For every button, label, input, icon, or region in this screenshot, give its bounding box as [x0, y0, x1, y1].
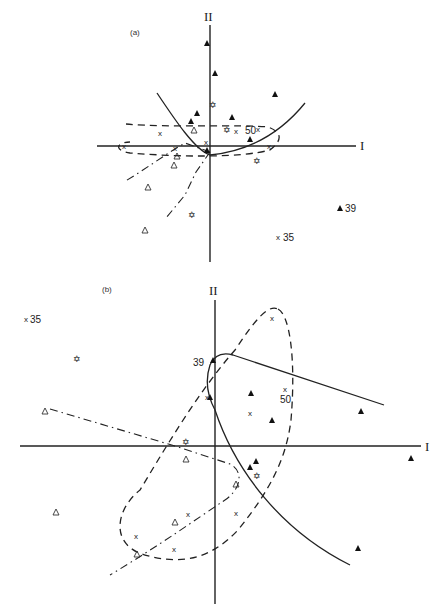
b-solid-curve — [207, 354, 384, 565]
cross-icon: x — [234, 509, 238, 518]
open-triangle-icon — [183, 456, 189, 462]
cross-icon: x — [158, 129, 162, 138]
star-icon: ✡ — [253, 156, 261, 166]
b-stars: ✡ ✡ ✡ — [73, 354, 261, 481]
open-triangle-icon — [134, 551, 140, 557]
cross-icon: x — [122, 142, 126, 151]
star-icon: ✡ — [223, 125, 231, 135]
star-icon: ✡ — [253, 471, 261, 481]
filled-triangle-icon — [229, 114, 235, 120]
a-dashdot-ray-1 — [124, 143, 210, 182]
cross-icon-50: x — [283, 385, 287, 394]
cross-icon-35: x — [276, 233, 280, 242]
cross-icon: x — [172, 545, 176, 554]
a-x-axis-label: I — [360, 138, 364, 153]
b-label-35: 35 — [30, 314, 42, 325]
a-y-axis-label: II — [204, 9, 213, 24]
star-icon: ✡ — [209, 100, 217, 110]
star-icon: ✡ — [188, 210, 196, 220]
panel-a-label: (a) — [130, 28, 140, 37]
open-triangle-icon — [191, 127, 197, 133]
b-x-axis-label: I — [425, 439, 429, 454]
filled-triangle-icon — [253, 458, 259, 464]
open-triangle-icon — [172, 519, 178, 525]
a-label-39: 39 — [345, 203, 357, 214]
filled-triangle-icon — [247, 464, 253, 470]
cross-icon: x — [173, 144, 177, 153]
filled-triangle-icon — [204, 40, 210, 46]
b-y-axis-label: II — [209, 283, 218, 298]
b-label-39: 39 — [193, 357, 205, 368]
filled-triangle-icon — [248, 390, 254, 396]
filled-triangle-icon — [408, 455, 414, 461]
cross-icon: x — [205, 393, 209, 402]
b-dashdot-curve — [50, 409, 239, 575]
figure: (a) II I 39 — [0, 0, 448, 606]
filled-triangle-icon — [188, 118, 194, 124]
filled-triangle-icon — [247, 136, 253, 142]
cross-icon: x — [270, 314, 274, 323]
panel-b-label: (b) — [102, 285, 112, 294]
cross-icon: x — [248, 409, 252, 418]
a-dashdot-ray-2 — [166, 152, 210, 218]
b-dashed-curve — [120, 308, 293, 560]
open-triangle-icon — [142, 227, 148, 233]
star-icon: ✡ — [182, 437, 190, 447]
a-label-50: 50 — [245, 125, 257, 136]
open-triangle-icon — [42, 408, 48, 414]
cross-icon-35: x — [24, 315, 28, 324]
panel-b: (b) II I 39 — [20, 283, 429, 604]
filled-triangle-icon — [212, 70, 218, 76]
filled-triangle-icon — [358, 408, 364, 414]
b-filled-triangles — [207, 357, 414, 551]
filled-triangle-icon — [269, 417, 275, 423]
a-label-35: 35 — [283, 232, 295, 243]
panel-a: (a) II I 39 — [97, 9, 364, 262]
filled-triangle-icon — [355, 545, 361, 551]
figure-svg: (a) II I 39 — [0, 0, 448, 606]
open-triangle-icon — [171, 162, 177, 168]
cross-icon: x — [186, 510, 190, 519]
cross-icon: x — [267, 142, 271, 151]
open-triangle-icon — [53, 509, 59, 515]
a-stars: ✡ ✡ ✡ ✡ — [188, 100, 261, 220]
filled-triangle-icon-39 — [337, 205, 343, 211]
star-icon: ✡ — [73, 354, 81, 364]
cross-icon-50: x — [256, 125, 260, 134]
b-label-50: 50 — [280, 394, 292, 405]
cross-icon: x — [234, 127, 238, 136]
filled-triangle-icon — [272, 91, 278, 97]
filled-triangle-icon — [194, 110, 200, 116]
b-open-triangles — [42, 408, 239, 557]
open-triangle-icon — [145, 184, 151, 190]
cross-icon: x — [134, 532, 138, 541]
cross-icon: x — [204, 138, 208, 147]
